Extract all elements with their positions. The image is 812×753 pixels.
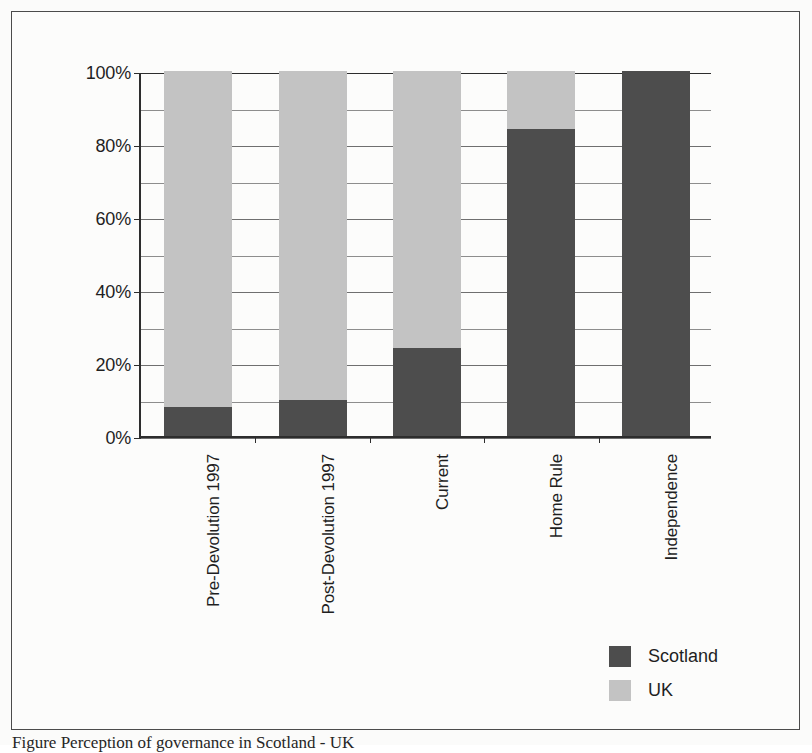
x-axis-tick — [599, 436, 600, 443]
x-axis-label: Current — [433, 454, 453, 510]
x-axis-label: Home Rule — [547, 454, 567, 538]
y-axis-tick-label: 40% — [96, 282, 131, 303]
y-axis-tick-label: 60% — [96, 209, 131, 230]
chart-plot-area: 0%20%40%60%80%100% — [139, 73, 711, 438]
figure-frame: 0%20%40%60%80%100% Pre-Devolution 1997Po… — [11, 11, 800, 730]
bar-segment-scotland — [279, 400, 347, 437]
figure-caption: Figure Perception of governance in Scotl… — [12, 733, 354, 753]
x-axis-label: Pre-Devolution 1997 — [204, 454, 224, 607]
bar-segment-uk — [164, 71, 232, 407]
legend-item-uk: UK — [609, 673, 718, 707]
y-axis-tick — [134, 73, 141, 74]
y-axis-tick — [134, 365, 141, 366]
legend-label-scotland: Scotland — [648, 646, 718, 667]
legend-label-uk: UK — [648, 680, 673, 701]
bar-home-rule[interactable] — [507, 73, 575, 436]
legend-swatch-scotland — [609, 646, 631, 667]
y-axis-tick-label: 20% — [96, 355, 131, 376]
gridline — [141, 438, 711, 439]
bar-segment-uk — [393, 71, 461, 348]
y-axis-tick-label: 80% — [96, 136, 131, 157]
bar-current[interactable] — [393, 73, 461, 436]
y-axis-tick — [134, 219, 141, 220]
x-axis-label: Independence — [662, 454, 682, 561]
x-axis-tick — [484, 436, 485, 443]
bar-segment-uk — [507, 71, 575, 129]
bar-segment-scotland — [507, 129, 575, 436]
x-axis-tick — [370, 436, 371, 443]
bar-segment-scotland — [164, 407, 232, 436]
chart-legend: Scotland UK — [609, 639, 718, 707]
y-axis-tick — [134, 292, 141, 293]
x-axis-tick — [255, 436, 256, 443]
legend-swatch-uk — [609, 680, 631, 701]
bar-segment-scotland — [393, 348, 461, 436]
y-axis-tick-label: 0% — [105, 428, 131, 449]
y-axis-tick-label: 100% — [86, 63, 131, 84]
legend-item-scotland: Scotland — [609, 639, 718, 673]
bar-segment-uk — [279, 71, 347, 400]
y-axis-tick — [134, 438, 141, 439]
bar-segment-scotland — [622, 71, 690, 436]
x-axis-label: Post-Devolution 1997 — [319, 454, 339, 615]
bar-pre-devolution-1997[interactable] — [164, 73, 232, 436]
bar-independence[interactable] — [622, 73, 690, 436]
bar-post-devolution-1997[interactable] — [279, 73, 347, 436]
y-axis-tick — [134, 146, 141, 147]
